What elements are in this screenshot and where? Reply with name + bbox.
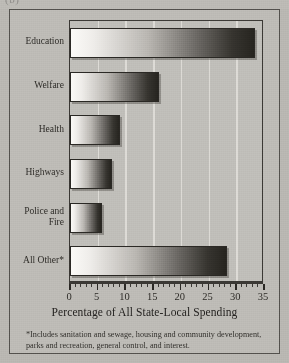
- gridline-10: [125, 21, 127, 281]
- x-tick-label-35: 35: [248, 291, 278, 302]
- minor-tick-29: [230, 284, 231, 287]
- category-label-police-and-fire: Police andFire: [11, 206, 69, 228]
- minor-tick-21: [185, 284, 186, 287]
- plot-area: [69, 20, 263, 282]
- chart-footnote: *Includes sanitation and sewage, housing…: [26, 330, 269, 351]
- minor-tick-2: [80, 284, 81, 287]
- gridline-25: [209, 21, 211, 281]
- minor-tick-6: [102, 284, 103, 287]
- gridline-15: [153, 21, 155, 281]
- figure-frame: EducationWelfareHealthHighwaysPolice and…: [9, 9, 280, 354]
- gridline-30: [236, 21, 238, 281]
- x-tick-label-20: 20: [165, 291, 195, 302]
- minor-tick-17: [163, 284, 164, 287]
- minor-tick-27: [219, 284, 220, 287]
- plot-area-wrapper: [69, 20, 263, 282]
- minor-tick-34: [257, 284, 258, 287]
- minor-tick-9: [119, 284, 120, 287]
- minor-tick-16: [158, 284, 159, 287]
- minor-tick-19: [174, 284, 175, 287]
- x-tick-label-10: 10: [109, 291, 139, 302]
- major-tick-35: [263, 284, 265, 290]
- major-tick-25: [208, 284, 210, 290]
- category-label-column: EducationWelfareHealthHighwaysPolice and…: [10, 20, 69, 282]
- minor-tick-11: [130, 284, 131, 287]
- bar-health: [70, 115, 120, 145]
- minor-tick-14: [147, 284, 148, 287]
- x-axis: [69, 282, 263, 291]
- minor-tick-8: [113, 284, 114, 287]
- category-label-welfare: Welfare: [11, 80, 69, 91]
- major-tick-15: [152, 284, 154, 290]
- minor-tick-33: [252, 284, 253, 287]
- minor-tick-18: [169, 284, 170, 287]
- minor-tick-26: [213, 284, 214, 287]
- category-label-highways: Highways: [11, 167, 69, 178]
- minor-tick-3: [86, 284, 87, 287]
- category-label-education: Education: [11, 36, 69, 47]
- x-tick-label-0: 0: [54, 291, 84, 302]
- gridline-20: [181, 21, 183, 281]
- bar-highways: [70, 159, 112, 189]
- major-tick-30: [235, 284, 237, 290]
- x-tick-label-5: 5: [82, 291, 112, 302]
- minor-tick-31: [241, 284, 242, 287]
- minor-tick-1: [75, 284, 76, 287]
- major-tick-0: [69, 284, 71, 290]
- minor-tick-28: [224, 284, 225, 287]
- bar-all-other: [70, 246, 227, 276]
- x-tick-label-15: 15: [137, 291, 167, 302]
- major-tick-5: [97, 284, 99, 290]
- minor-tick-7: [108, 284, 109, 287]
- x-axis-tick-labels: 05101520253035: [69, 291, 263, 305]
- minor-tick-24: [202, 284, 203, 287]
- major-tick-10: [124, 284, 126, 290]
- minor-tick-13: [141, 284, 142, 287]
- minor-tick-12: [136, 284, 137, 287]
- category-label-all-other: All Other*: [11, 255, 69, 266]
- bar-police-and-fire: [70, 203, 102, 233]
- clipped-top-strip: (b): [0, 0, 289, 9]
- gridline-5: [98, 21, 100, 281]
- x-tick-label-30: 30: [220, 291, 250, 302]
- bar-education: [70, 28, 255, 58]
- minor-tick-22: [191, 284, 192, 287]
- x-axis-title: Percentage of All State-Local Spending: [10, 306, 279, 318]
- clipped-panel-letter: (b): [5, 0, 19, 5]
- minor-tick-23: [196, 284, 197, 287]
- x-tick-label-25: 25: [193, 291, 223, 302]
- major-tick-20: [180, 284, 182, 290]
- category-label-health: Health: [11, 124, 69, 135]
- minor-tick-4: [91, 284, 92, 287]
- bar-welfare: [70, 72, 159, 102]
- minor-tick-32: [246, 284, 247, 287]
